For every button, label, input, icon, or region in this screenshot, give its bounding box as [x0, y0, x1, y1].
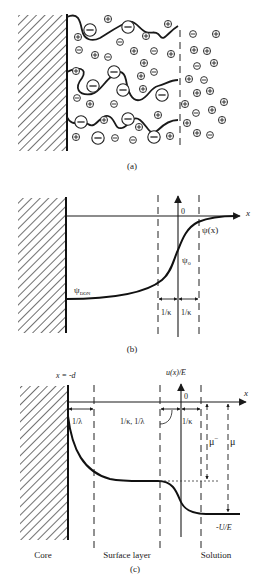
mu-minus-label: μ− [209, 435, 218, 447]
mu-label: μ [230, 436, 235, 447]
origin-label-c: 0 [184, 392, 188, 401]
debye-label-right: 1/κ [181, 308, 191, 317]
kappa-lambda-leader [160, 410, 172, 424]
panel-b: x 0 ψ(x) ψo ψDON 1/κ 1/κ (b) [18, 195, 250, 354]
core-hatch-b [18, 198, 66, 333]
x-label-c: x [243, 388, 248, 398]
minus-u-e-label: -U/E [216, 523, 232, 532]
core-hatch-a [18, 15, 67, 151]
y-axis-label-c: u(x)/E [166, 368, 186, 377]
panel-a: (a) [18, 14, 228, 171]
caption-b: (b) [127, 344, 138, 354]
region-core-label: Core [34, 550, 52, 560]
caption-c: (c) [130, 564, 140, 574]
figure-canvas: (a) x 0 ψ(x) ψo ψDON 1/κ 1/κ (b) [0, 0, 264, 588]
psi-0-label: ψo [182, 255, 191, 266]
core-hatch-c [20, 386, 68, 540]
region-surface-label: Surface layer [103, 550, 151, 560]
lambda-label: 1/λ [72, 417, 82, 426]
caption-a: (a) [127, 161, 137, 171]
debye-label-left: 1/κ [161, 308, 171, 317]
x-minus-d-label: x = -d [55, 371, 77, 380]
origin-label-b: 0 [181, 207, 185, 216]
kappa-label-right: 1/κ [182, 417, 192, 426]
x-label-b: x [245, 208, 250, 218]
kappa-lambda-label: 1/κ, 1/λ [120, 417, 144, 426]
panel-c: x = -d u(x)/E x 0 1/λ 1/κ, 1/λ 1/κ μ− μ … [20, 368, 248, 574]
psi-don-label: ψDON [74, 285, 91, 296]
region-solution-label: Solution [201, 550, 232, 560]
psi-x-label: ψ(x) [202, 225, 218, 235]
